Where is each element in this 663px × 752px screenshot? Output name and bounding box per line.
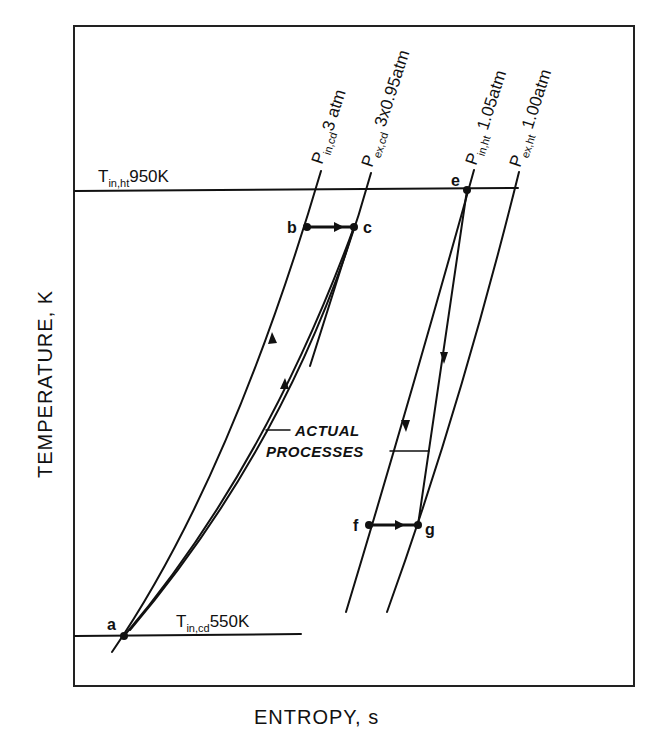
isobar-p-in-ht-label: Pin,ht 1.05atm (462, 68, 513, 168)
point-e (463, 186, 471, 194)
isobar-p-ex-ht-label: Pex,ht 1.00atm (506, 67, 558, 170)
label-g: g (425, 521, 435, 538)
label-c: c (363, 219, 372, 236)
label-f: f (353, 517, 359, 534)
isobar-p-in-cd (112, 171, 321, 652)
x-axis-title: ENTROPY, s (254, 706, 379, 728)
isotherm-550k-label: Tin,cd550K (176, 612, 250, 634)
point-f (365, 521, 373, 529)
arrow-compression-isobar-icon (268, 332, 277, 344)
isotherm-950k-label: Tin,ht950K (98, 167, 170, 189)
isobar-p-in-cd-label: Pin,cd3 atm (308, 87, 353, 167)
label-b: b (287, 219, 297, 236)
isentropic-compression-line (310, 227, 354, 366)
annotation-line1: ACTUAL (294, 422, 360, 439)
label-e: e (451, 172, 460, 189)
point-c (350, 223, 358, 231)
isobar-p-ex-cd-label: Pex,cd 3x0.95atm (358, 48, 417, 171)
point-b (303, 223, 311, 231)
arrow-b-c-icon (334, 222, 344, 232)
isobar-p-ex-ht (387, 172, 519, 612)
annotation-line2: PROCESSES (266, 443, 364, 460)
isotherm-550k-line (75, 634, 301, 636)
arrow-expansion-isobar-icon (401, 420, 410, 432)
point-g (414, 521, 422, 529)
arrow-f-g-icon (395, 520, 405, 530)
label-a: a (107, 616, 116, 633)
y-axis-title: TEMPERATURE, K (34, 290, 56, 478)
ts-diagram: Tin,ht950K Tin,cd550K a b c e f g Pin,cd… (0, 0, 663, 752)
point-a (120, 632, 128, 640)
